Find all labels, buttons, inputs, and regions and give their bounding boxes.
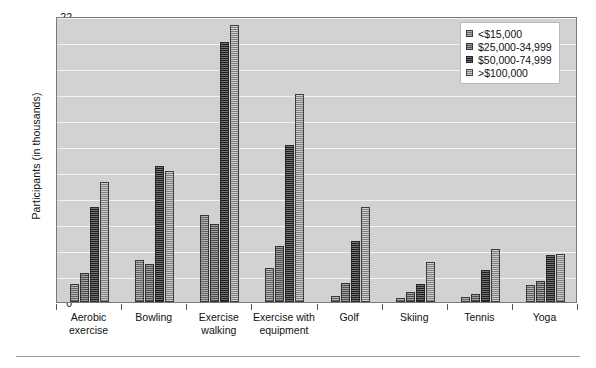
x-axis-tick xyxy=(56,304,57,310)
x-axis-label: Exercise with equipment xyxy=(251,311,316,336)
bar[interactable] xyxy=(70,284,79,302)
legend-label: <$15,000 xyxy=(478,28,522,40)
bar[interactable] xyxy=(210,224,219,302)
bar[interactable] xyxy=(361,207,370,302)
x-axis-tick xyxy=(512,304,513,310)
bar[interactable] xyxy=(426,262,435,302)
x-axis-tick xyxy=(186,304,187,310)
bar[interactable] xyxy=(90,207,99,302)
bar[interactable] xyxy=(220,42,229,302)
bar[interactable] xyxy=(481,270,490,303)
grouped-bar-chart: Participants (in thousands) 024681012141… xyxy=(0,0,596,368)
legend-label: $25,000-34,999 xyxy=(478,41,552,53)
bar[interactable] xyxy=(135,260,144,302)
bar[interactable] xyxy=(100,182,109,302)
x-axis-tick xyxy=(577,304,578,310)
legend-swatch-icon xyxy=(466,30,473,37)
legend-swatch-icon xyxy=(466,69,473,76)
bar-group xyxy=(57,18,122,302)
bar-group xyxy=(187,18,252,302)
legend: <$15,000$25,000-34,999$50,000-74,999>$10… xyxy=(460,22,560,84)
bar[interactable] xyxy=(526,285,535,302)
bar[interactable] xyxy=(556,254,565,302)
y-axis-title: Participants (in thousands) xyxy=(30,16,42,296)
bar[interactable] xyxy=(275,246,284,302)
bar[interactable] xyxy=(285,145,294,302)
x-axis-tick xyxy=(121,304,122,310)
legend-item[interactable]: $50,000-74,999 xyxy=(466,53,552,66)
bar-group xyxy=(252,18,317,302)
bar[interactable] xyxy=(406,292,415,302)
legend-label: $50,000-74,999 xyxy=(478,54,552,66)
bar-group xyxy=(318,18,383,302)
x-axis-label: Golf xyxy=(317,311,382,324)
bar-group xyxy=(383,18,448,302)
bar[interactable] xyxy=(80,273,89,302)
bar[interactable] xyxy=(546,255,555,302)
legend-item[interactable]: <$15,000 xyxy=(466,27,552,40)
x-axis-tick xyxy=(447,304,448,310)
bar[interactable] xyxy=(331,296,340,303)
x-axis-label: Skiing xyxy=(382,311,447,324)
bar[interactable] xyxy=(155,166,164,303)
x-axis-tick xyxy=(251,304,252,310)
x-axis-label: Tennis xyxy=(447,311,512,324)
bar[interactable] xyxy=(295,94,304,302)
bar[interactable] xyxy=(536,281,545,302)
legend-swatch-icon xyxy=(466,43,473,50)
x-axis-label: Aerobic exercise xyxy=(56,311,121,336)
bar[interactable] xyxy=(200,215,209,302)
bar[interactable] xyxy=(461,297,470,302)
bar[interactable] xyxy=(471,294,480,302)
bar[interactable] xyxy=(491,249,500,302)
legend-swatch-icon xyxy=(466,56,473,63)
bar[interactable] xyxy=(265,268,274,302)
legend-item[interactable]: >$100,000 xyxy=(466,66,552,79)
bar[interactable] xyxy=(351,241,360,302)
x-axis-tick xyxy=(382,304,383,310)
bar[interactable] xyxy=(165,171,174,302)
bar[interactable] xyxy=(416,284,425,302)
x-axis-label: Exercise walking xyxy=(186,311,251,336)
bar[interactable] xyxy=(341,283,350,303)
bar[interactable] xyxy=(230,25,239,302)
bottom-divider xyxy=(16,356,580,357)
x-axis-label: Bowling xyxy=(121,311,186,324)
x-axis-tick xyxy=(317,304,318,310)
bar[interactable] xyxy=(145,264,154,302)
bar[interactable] xyxy=(396,298,405,302)
bar-group xyxy=(122,18,187,302)
x-axis-label: Yoga xyxy=(512,311,577,324)
legend-label: >$100,000 xyxy=(478,67,528,79)
legend-item[interactable]: $25,000-34,999 xyxy=(466,40,552,53)
